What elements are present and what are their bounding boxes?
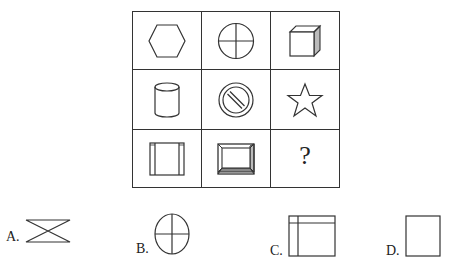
option-c[interactable]: C. <box>270 214 337 258</box>
rectangle-icon <box>404 214 442 258</box>
beveled-square-icon <box>216 142 256 176</box>
option-b[interactable]: B. <box>136 212 191 256</box>
star-icon <box>286 82 324 118</box>
cell-r1c2 <box>202 12 271 70</box>
option-d-label: D. <box>386 244 400 258</box>
rectangle-lines-icon <box>287 214 337 258</box>
square-side-bars-icon <box>148 141 186 177</box>
question-mark: ? <box>299 141 311 171</box>
cylinder-icon <box>152 80 182 120</box>
option-c-label: C. <box>270 244 283 258</box>
cube-icon <box>287 23 323 59</box>
option-a[interactable]: A. <box>6 218 72 244</box>
cell-r1c1 <box>133 12 202 70</box>
cell-r3c2 <box>202 130 271 187</box>
option-b-label: B. <box>136 242 149 256</box>
cell-r3c3: ? <box>271 130 339 187</box>
option-a-label: A. <box>6 230 20 244</box>
cell-r2c2 <box>202 70 271 130</box>
cell-r2c3 <box>271 70 339 130</box>
cell-r3c1 <box>133 130 202 187</box>
cell-r2c1 <box>133 70 202 130</box>
circle-cross-icon <box>216 21 256 61</box>
hourglass-icon <box>24 218 72 244</box>
puzzle-grid: ? <box>132 11 340 188</box>
ellipse-cross-icon <box>153 212 191 256</box>
prohibition-icon <box>217 81 255 119</box>
cell-r1c3 <box>271 12 339 70</box>
hexagon-icon <box>147 23 187 59</box>
option-d[interactable]: D. <box>386 214 442 258</box>
